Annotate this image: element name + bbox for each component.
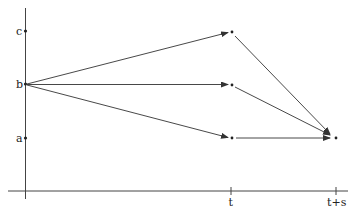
state-dot-a: [24, 136, 27, 139]
x-label-t-plus-s: t+s: [327, 196, 347, 209]
x-label-t: t: [229, 196, 234, 209]
state-dot-b: [24, 82, 27, 85]
state-dot-c-at-t: [231, 31, 234, 34]
arrow-c-to-a-final: [235, 36, 330, 134]
state-dot-c: [24, 29, 27, 32]
arrow-b-to-a: [27, 85, 228, 138]
arrow-b-to-a-final: [235, 87, 330, 135]
state-dot-a-at-t: [231, 137, 234, 140]
state-dot-b-at-t: [231, 84, 234, 87]
y-label-a: a: [16, 132, 23, 145]
y-label-c: c: [16, 25, 22, 38]
arrow-b-to-c: [27, 33, 228, 85]
y-label-b: b: [16, 78, 23, 91]
state-dot-a-at-t-plus-s: [335, 137, 338, 140]
diagram-canvas: c b a t t+s: [0, 0, 357, 212]
